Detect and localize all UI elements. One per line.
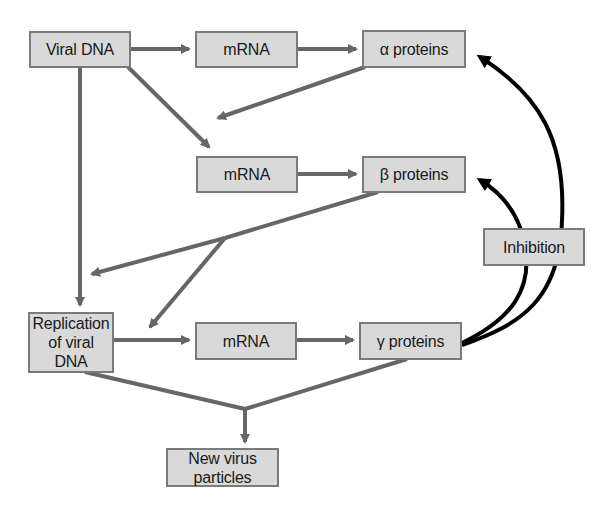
node-mrna-alpha-label: mRNA — [223, 40, 269, 59]
node-viral-dna: Viral DNA — [29, 31, 131, 68]
node-mrna-gamma: mRNA — [195, 322, 297, 360]
node-mrna-beta-label: mRNA — [224, 165, 270, 184]
inhibition-arrow-to-alpha-proteins — [462, 57, 562, 345]
node-mrna-gamma-label: mRNA — [223, 332, 269, 351]
arrow-beta-branch-to-replication-side — [92, 238, 225, 274]
arrow-viral-dna-to-mrna-beta — [128, 67, 209, 147]
node-viral-dna-label: Viral DNA — [46, 40, 114, 59]
arrow-beta-branch-to-replication-corner — [150, 238, 225, 327]
viral-gene-expression-diagram: Viral DNA mRNA α proteins mRNA β protein… — [0, 0, 612, 509]
node-beta-proteins-label: β proteins — [380, 165, 449, 184]
node-replication: Replication of viral DNA — [28, 312, 114, 373]
node-replication-label: Replication of viral DNA — [30, 314, 112, 371]
node-beta-proteins: β proteins — [362, 156, 466, 193]
node-gamma-proteins: γ proteins — [359, 322, 462, 360]
node-gamma-proteins-label: γ proteins — [377, 332, 444, 351]
node-alpha-proteins: α proteins — [362, 30, 466, 68]
node-inhibition-label: Inhibition — [503, 238, 565, 257]
node-new-virus-particles: New virus particles — [166, 448, 279, 487]
line-beta-proteins-stem — [225, 192, 378, 238]
line-gamma-to-merge — [245, 359, 407, 409]
line-replication-to-merge — [85, 372, 245, 409]
node-inhibition: Inhibition — [483, 228, 585, 266]
arrow-alpha-proteins-to-mrna-beta — [218, 67, 365, 118]
node-alpha-proteins-label: α proteins — [380, 40, 449, 59]
node-new-virus-particles-label: New virus particles — [168, 449, 277, 487]
node-mrna-alpha: mRNA — [195, 31, 298, 68]
node-mrna-beta: mRNA — [196, 156, 298, 193]
